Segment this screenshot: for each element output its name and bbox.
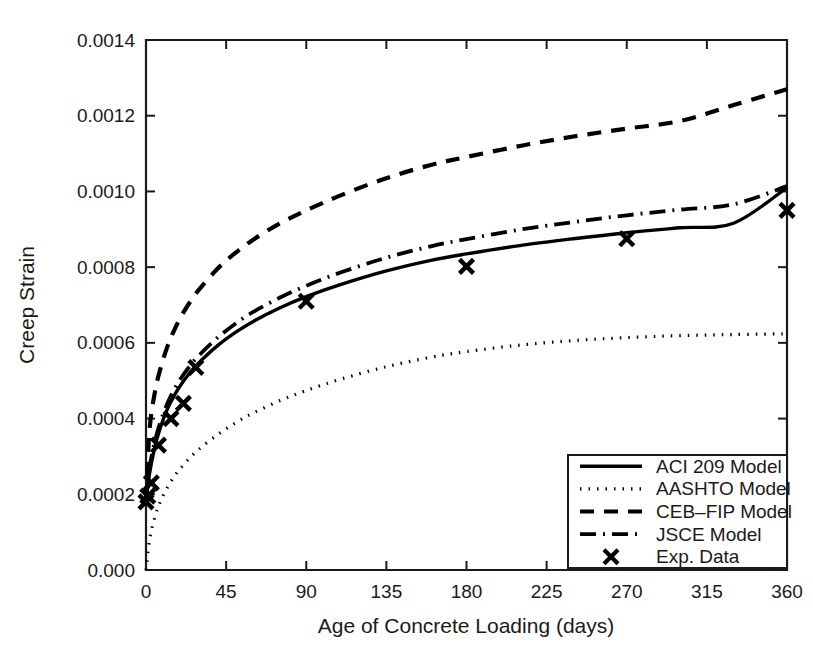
x-tick-label: 270 bbox=[611, 581, 643, 602]
x-tick-label: 45 bbox=[216, 581, 237, 602]
x-tick-label: 225 bbox=[531, 581, 563, 602]
x-axis-title: Age of Concrete Loading (days) bbox=[318, 614, 615, 637]
x-tick-label: 360 bbox=[771, 581, 803, 602]
legend-label-aashto-model: AASHTO Model bbox=[656, 478, 791, 499]
y-tick-label: 0.0006 bbox=[77, 332, 135, 353]
data-point-marker bbox=[189, 360, 203, 374]
y-tick-label: 0.0010 bbox=[77, 181, 135, 202]
legend-label-ceb-fip-model: CEB–FIP Model bbox=[656, 501, 792, 522]
y-tick-label: 0.000 bbox=[87, 560, 135, 581]
y-tick-label: 0.0008 bbox=[77, 257, 135, 278]
creep-strain-chart-figure: 0.0000.00020.00040.00060.00080.00100.001… bbox=[0, 0, 813, 650]
x-tick-label: 0 bbox=[141, 581, 152, 602]
data-point-marker bbox=[176, 396, 190, 410]
chart-canvas: 0.0000.00020.00040.00060.00080.00100.001… bbox=[0, 0, 813, 650]
legend-label-aci-209-model: ACI 209 Model bbox=[656, 456, 782, 477]
chart-legend: ACI 209 ModelAASHTO ModelCEB–FIP ModelJS… bbox=[568, 455, 792, 568]
x-axis-tick-labels: 04590135180225270315360 bbox=[141, 581, 803, 602]
legend-label-exp-data: Exp. Data bbox=[656, 546, 740, 567]
x-tick-label: 90 bbox=[296, 581, 317, 602]
y-tick-label: 0.0002 bbox=[77, 484, 135, 505]
y-axis-tick-labels: 0.0000.00020.00040.00060.00080.00100.001… bbox=[77, 30, 136, 581]
y-tick-label: 0.0014 bbox=[77, 30, 136, 51]
data-point-marker bbox=[164, 412, 178, 426]
data-point-marker bbox=[460, 259, 474, 273]
y-axis-title: Creep Strain bbox=[15, 246, 38, 364]
legend-label-jsce-model: JSCE Model bbox=[656, 524, 762, 545]
series-line-ceb-fip-model bbox=[146, 89, 787, 500]
x-tick-label: 135 bbox=[371, 581, 403, 602]
data-point-marker bbox=[151, 438, 165, 452]
x-tick-label: 315 bbox=[691, 581, 723, 602]
x-tick-label: 180 bbox=[451, 581, 483, 602]
y-tick-label: 0.0004 bbox=[77, 408, 136, 429]
y-tick-label: 0.0012 bbox=[77, 105, 135, 126]
